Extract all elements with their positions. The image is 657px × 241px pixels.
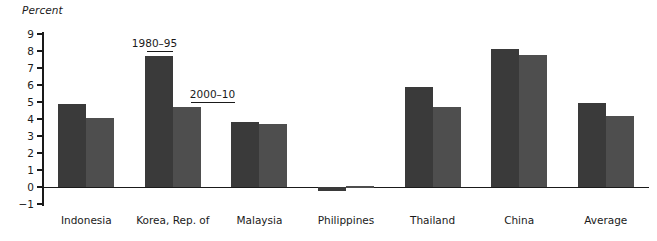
y-tick-label: 4 <box>0 114 34 125</box>
bar <box>231 122 259 187</box>
y-tick-label: 8 <box>0 46 34 57</box>
annotation-leader-line-1980-95 <box>147 51 173 52</box>
y-tick-mark <box>37 135 42 136</box>
x-axis-category-label: Malaysia <box>216 214 303 226</box>
y-tick-mark <box>37 203 42 204</box>
bar <box>173 107 201 187</box>
y-tick-label: 5 <box>0 97 34 108</box>
bar <box>433 107 461 187</box>
plot-area <box>43 34 649 204</box>
x-axis-category-label: Thailand <box>389 214 476 226</box>
y-tick-label: 0 <box>0 182 34 193</box>
y-tick-label: 7 <box>0 63 34 74</box>
y-tick-label: 1 <box>0 165 34 176</box>
bar <box>578 103 606 187</box>
series-annotation-2000-10: 2000–10 <box>189 88 236 100</box>
x-axis-category-label: Korea, Rep. of <box>130 214 217 226</box>
bar <box>519 55 547 187</box>
y-tick-mark <box>37 101 42 102</box>
bar <box>86 118 114 187</box>
bar <box>346 186 374 188</box>
y-tick-mark <box>37 118 42 119</box>
y-tick-mark <box>37 50 42 51</box>
bar <box>259 124 287 187</box>
x-axis-category-label: Philippines <box>303 214 390 226</box>
x-axis-category-label: Average <box>562 214 649 226</box>
y-tick-mark <box>37 152 42 153</box>
bar <box>145 56 173 187</box>
y-tick-mark <box>37 33 42 34</box>
bar <box>491 49 519 187</box>
y-tick-label: −1 <box>0 199 34 210</box>
bar <box>318 187 346 191</box>
x-axis-category-label: China <box>476 214 563 226</box>
y-tick-mark <box>37 169 42 170</box>
y-axis-title: Percent <box>22 4 63 16</box>
bar <box>606 116 634 187</box>
bar-chart: Percent 9876543210−1 IndonesiaKorea, Rep… <box>0 0 657 241</box>
y-tick-mark <box>37 84 42 85</box>
y-tick-label: 6 <box>0 80 34 91</box>
y-tick-label: 3 <box>0 131 34 142</box>
y-tick-label: 9 <box>0 29 34 40</box>
series-annotation-1980-95: 1980–95 <box>131 37 178 49</box>
x-axis-category-label: Indonesia <box>43 214 130 226</box>
y-tick-label: 2 <box>0 148 34 159</box>
y-tick-mark <box>37 67 42 68</box>
bar <box>405 87 433 187</box>
y-tick-mark <box>37 186 42 187</box>
annotation-leader-line-2000-10 <box>191 102 235 103</box>
bar <box>58 104 86 187</box>
